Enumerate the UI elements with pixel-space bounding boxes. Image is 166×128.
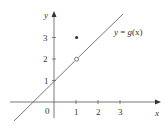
y-tick-label-3: 3 xyxy=(43,33,48,43)
x-tick-label-2: 2 xyxy=(96,107,101,117)
x-tick-label-3: 3 xyxy=(118,107,123,117)
filled-point xyxy=(75,36,78,39)
x-tick-label-1: 1 xyxy=(74,107,79,117)
graph-canvas: y x 0 1 2 3 1 2 3 y = g(x) xyxy=(0,0,166,128)
y-axis-label: y xyxy=(43,10,48,20)
curve-annotation-eq: = xyxy=(120,27,125,37)
origin-label: 0 xyxy=(45,106,50,116)
y-tick-label-1: 1 xyxy=(44,76,49,86)
y-axis-arrow-icon xyxy=(52,11,57,17)
curve-annotation-arg: (x) xyxy=(132,27,143,37)
open-point xyxy=(75,57,79,61)
curve-annotation: y = g(x) xyxy=(113,27,143,37)
curve-annotation-lhs: y xyxy=(113,27,118,37)
y-tick-label-2: 2 xyxy=(43,54,48,64)
x-axis-label: x xyxy=(154,108,159,118)
x-axis-arrow-icon xyxy=(155,100,161,105)
